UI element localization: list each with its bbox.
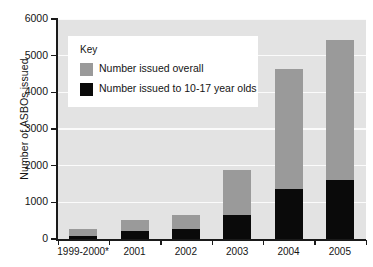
y-tick <box>51 202 57 204</box>
bar-slot <box>275 19 303 239</box>
x-tick <box>212 240 214 245</box>
gridline <box>58 128 366 130</box>
x-tick <box>160 240 162 245</box>
bar-youth <box>275 189 303 239</box>
y-tick-label: 2000 <box>8 159 48 171</box>
legend: Key Number issued overall Number issued … <box>68 36 258 107</box>
gridline <box>58 202 366 204</box>
y-tick <box>51 18 57 20</box>
x-tick-label: 1999-2000* <box>57 246 109 257</box>
legend-title: Key <box>80 44 97 55</box>
gridline <box>58 19 366 20</box>
y-tick <box>51 92 57 94</box>
x-tick <box>314 240 316 245</box>
x-tick-label: 2001 <box>123 246 145 257</box>
y-tick-label: 6000 <box>8 12 48 24</box>
bar-youth <box>223 215 251 239</box>
y-tick-label: 4000 <box>8 85 48 97</box>
y-tick <box>51 128 57 130</box>
x-tick-label: 2005 <box>329 246 351 257</box>
x-tick-label: 2002 <box>175 246 197 257</box>
bar-youth <box>326 180 354 239</box>
legend-swatch-overall <box>80 63 93 76</box>
y-tick-label: 3000 <box>8 122 48 134</box>
legend-swatch-youth <box>80 83 93 96</box>
x-tick-label: 2004 <box>277 246 299 257</box>
gridline <box>58 165 366 167</box>
x-tick <box>109 240 111 245</box>
asbo-bar-chart: Number of ASBOs issued 01000200030004000… <box>0 0 373 267</box>
x-tick-label: 2003 <box>226 246 248 257</box>
y-tick-label: 1000 <box>8 195 48 207</box>
x-tick <box>366 240 368 245</box>
legend-label-overall: Number issued overall <box>99 62 203 74</box>
x-tick <box>263 240 265 245</box>
y-tick <box>51 55 57 57</box>
legend-label-youth: Number issued to 10-17 year olds <box>99 82 257 94</box>
x-tick <box>58 240 60 245</box>
y-tick <box>51 165 57 167</box>
bar-youth <box>172 229 200 239</box>
bar-slot <box>326 19 354 239</box>
y-tick-label: 0 <box>8 232 48 244</box>
bar-youth <box>121 231 149 239</box>
y-tick-label: 5000 <box>8 49 48 61</box>
